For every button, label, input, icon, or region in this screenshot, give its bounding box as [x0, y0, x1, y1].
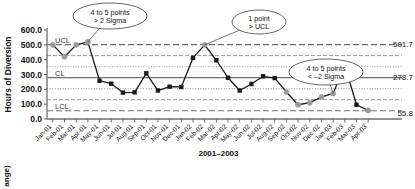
- data-point-in-control[interactable]: [121, 90, 125, 94]
- data-point-out-of-control[interactable]: [307, 100, 312, 105]
- data-point-in-control[interactable]: [132, 90, 136, 94]
- annotation-two-sigma-high-line2: > 2 Sigma: [94, 16, 127, 25]
- cl-value-label: 278.7: [393, 73, 414, 82]
- data-point-in-control[interactable]: [273, 76, 277, 80]
- data-point-out-of-control[interactable]: [295, 102, 300, 107]
- data-point-in-control[interactable]: [354, 103, 358, 107]
- y-tick-label: 100.0: [21, 99, 43, 109]
- annotation-one-point-above-ucl-line2: > UCL: [249, 22, 270, 31]
- data-point-in-control[interactable]: [261, 74, 265, 78]
- data-point-out-of-control[interactable]: [366, 108, 371, 113]
- data-point-in-control[interactable]: [97, 79, 101, 83]
- control-chart-figure: UCLCLLCL501.7278.755.80.0100.0200.0300.0…: [0, 0, 415, 189]
- annotation-two-sigma-low-line2: < –2 Sigma: [308, 72, 345, 81]
- y-tick-label: 0.0: [30, 114, 42, 124]
- partial-caption: ange): [2, 165, 11, 187]
- lcl-label: LCL: [55, 102, 69, 111]
- lcl-value-label: 55.8: [397, 109, 413, 118]
- data-point-in-control[interactable]: [249, 82, 253, 86]
- y-tick-label: 500.0: [21, 40, 43, 50]
- data-point-in-control[interactable]: [144, 71, 148, 75]
- cl-label: CL: [55, 69, 65, 78]
- y-tick-label: 300.0: [21, 70, 43, 80]
- data-point-in-control[interactable]: [167, 84, 171, 88]
- ucl-label: UCL: [55, 36, 70, 45]
- data-point-out-of-control[interactable]: [319, 94, 324, 99]
- data-point-out-of-control[interactable]: [62, 54, 67, 59]
- data-point-out-of-control[interactable]: [202, 42, 207, 47]
- y-axis-title: Hours of Diversion: [3, 36, 13, 112]
- y-tick-label: 400.0: [21, 55, 43, 65]
- data-point-in-control[interactable]: [191, 56, 195, 60]
- ucl-value-label: 501.7: [393, 40, 414, 49]
- x-axis-title: 2001–2003: [198, 149, 239, 158]
- data-point-out-of-control[interactable]: [284, 89, 289, 94]
- y-tick-label: 600.0: [21, 25, 43, 35]
- annotation-one-point-above-ucl: 1 point> UCL: [205, 10, 286, 45]
- data-point-in-control[interactable]: [179, 85, 183, 89]
- y-tick-label: 200.0: [21, 84, 43, 94]
- data-point-in-control[interactable]: [214, 58, 218, 62]
- control-chart-svg: UCLCLLCL501.7278.755.80.0100.0200.0300.0…: [0, 0, 415, 189]
- data-point-in-control[interactable]: [109, 81, 113, 85]
- data-point-in-control[interactable]: [226, 76, 230, 80]
- data-point-out-of-control[interactable]: [74, 42, 79, 47]
- data-point-in-control[interactable]: [237, 88, 241, 92]
- annotation-two-sigma-high: 4 to 5 points> 2 Sigma: [73, 3, 147, 42]
- data-point-out-of-control[interactable]: [50, 42, 55, 47]
- data-point-in-control[interactable]: [156, 88, 160, 92]
